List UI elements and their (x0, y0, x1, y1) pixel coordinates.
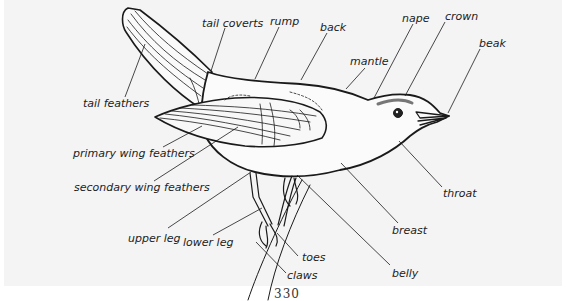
label-rump: rump (270, 16, 299, 28)
label-tail-feathers: tail feathers (83, 98, 149, 110)
label-belly: belly (392, 268, 418, 280)
label-tail-coverts: tail coverts (202, 18, 263, 30)
tail-feathers-drawing (123, 8, 213, 108)
label-back: back (320, 22, 346, 34)
label-upper-leg: upper leg (128, 233, 181, 245)
label-crown: crown (445, 11, 478, 23)
label-throat: throat (443, 188, 477, 200)
label-breast: breast (392, 225, 427, 237)
branch (248, 180, 310, 300)
page-number: 330 (274, 287, 300, 301)
label-lower-leg: lower leg (183, 237, 233, 249)
label-claws: claws (287, 270, 318, 282)
label-beak: beak (479, 38, 506, 50)
label-toes: toes (302, 252, 326, 264)
eye (394, 109, 403, 118)
label-mantle: mantle (350, 56, 389, 68)
label-nape: nape (402, 13, 429, 25)
label-secondary-wing-feathers: secondary wing feathers (74, 182, 210, 194)
label-primary-wing-feathers: primary wing feathers (73, 148, 195, 160)
